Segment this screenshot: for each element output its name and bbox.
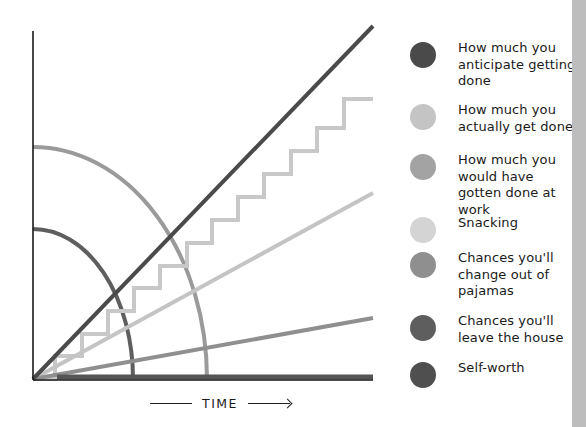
legend-dot-icon <box>410 362 436 388</box>
series-snacking-line <box>33 193 373 379</box>
legend-label: How much you anticipate getting done <box>458 40 578 90</box>
time-arrow-icon <box>248 403 290 404</box>
legend-item-leave-house: Chances you'll leave the house <box>410 313 578 346</box>
page-edge-bar <box>572 0 586 427</box>
legend-dot-icon <box>410 252 436 278</box>
x-axis-label-text: TIME <box>202 396 238 411</box>
x-axis-label: TIME <box>150 396 290 411</box>
legend-label: Chances you'll change out of pajamas <box>458 250 578 300</box>
legend-label: Chances you'll leave the house <box>458 313 578 346</box>
legend-item-snacking: Snacking <box>410 215 578 243</box>
legend-dot-icon <box>410 217 436 243</box>
series-work-arc <box>33 147 207 379</box>
legend-dot-icon <box>410 154 436 180</box>
legend-label: How much you actually get done <box>458 102 578 135</box>
legend-dot-icon <box>410 104 436 130</box>
legend-label: Self-worth <box>458 360 578 377</box>
legend-item-self-worth: Self-worth <box>410 360 578 388</box>
legend-dot-icon <box>410 42 436 68</box>
legend-item-work: How much you would have gotten done at w… <box>410 152 578 218</box>
legend-item-actually-done: How much you actually get done <box>410 102 578 135</box>
legend-dot-icon <box>410 315 436 341</box>
legend-item-anticipate: How much you anticipate getting done <box>410 40 578 90</box>
legend-label: How much you would have gotten done at w… <box>458 152 578 218</box>
legend-item-pajamas: Chances you'll change out of pajamas <box>410 250 578 300</box>
legend-label: Snacking <box>458 215 578 232</box>
time-line-left <box>150 403 192 404</box>
